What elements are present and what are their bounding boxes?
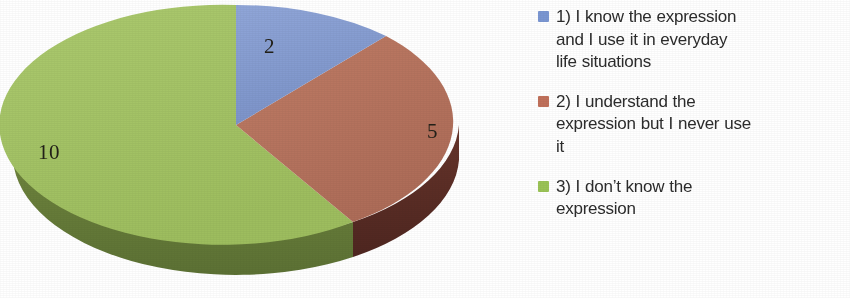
legend-label-3: 3) I don’t know the expression xyxy=(556,176,844,221)
legend-item-3[interactable]: 3) I don’t know the expression xyxy=(538,176,844,221)
legend-label-1: 1) I know the expression and I use it in… xyxy=(556,6,844,74)
legend-label-3-line-2: expression xyxy=(556,198,844,221)
pie-slice-3-data-label: 10 xyxy=(38,142,60,163)
pie-chart-plot-area: 2 5 10 xyxy=(0,0,500,298)
chart-legend: 1) I know the expression and I use it in… xyxy=(538,6,844,238)
legend-swatch-icon-2 xyxy=(538,96,549,107)
legend-label-1-line-1: 1) I know the expression xyxy=(556,6,844,29)
pie-slice-1-data-label: 2 xyxy=(264,36,275,57)
legend-label-2-line-1: 2) I understand the xyxy=(556,91,844,114)
pie-chart-figure: 2 5 10 1) I know the expression and I us… xyxy=(0,0,850,298)
legend-item-1[interactable]: 1) I know the expression and I use it in… xyxy=(538,6,844,74)
legend-swatch-icon-1 xyxy=(538,11,549,22)
legend-item-2[interactable]: 2) I understand the expression but I nev… xyxy=(538,91,844,159)
pie-slice-2-data-label: 5 xyxy=(427,121,438,142)
legend-label-3-line-1: 3) I don’t know the xyxy=(556,176,844,199)
pie-chart-graphic xyxy=(0,0,500,298)
legend-label-2-line-3: it xyxy=(556,136,844,159)
legend-label-1-line-2: and I use it in everyday xyxy=(556,29,844,52)
legend-label-2-line-2: expression but I never use xyxy=(556,113,844,136)
legend-label-2: 2) I understand the expression but I nev… xyxy=(556,91,844,159)
legend-swatch-icon-3 xyxy=(538,181,549,192)
legend-label-1-line-3: life situations xyxy=(556,51,844,74)
